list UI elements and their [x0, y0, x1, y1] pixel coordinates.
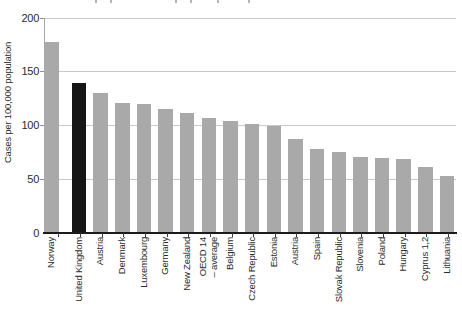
- gridline-150: [44, 71, 456, 72]
- bar-united-kingdom: [72, 83, 87, 234]
- bar-austria: [288, 139, 303, 233]
- bar-spain: [310, 149, 325, 233]
- x-label-poland: Poland: [377, 237, 388, 325]
- cropped-text-fragment: [248, 0, 250, 3]
- y-tick-label-200: 200: [0, 12, 39, 24]
- x-label-lithuania: Lithuania: [442, 237, 453, 325]
- x-label-austria: Austria: [290, 237, 301, 325]
- bar-hungary: [396, 159, 411, 233]
- bar-czech-republic: [245, 124, 260, 233]
- cropped-text-fragment: [175, 0, 177, 3]
- bar-estonia: [267, 126, 282, 234]
- x-label-belgium: Belgium: [225, 237, 236, 325]
- y-tick-label-100: 100: [0, 119, 39, 131]
- x-label-new-zealand: New Zealand: [182, 237, 193, 325]
- x-label-cyprus-1-2: Cyprus 1,2: [420, 237, 431, 325]
- bar-austria: [93, 93, 108, 233]
- x-label-luxembourg: Luxembourg: [139, 237, 150, 325]
- x-label-czech-republic: Czech Republic: [247, 237, 258, 325]
- bar-slovenia: [353, 157, 368, 233]
- y-tick-label-150: 150: [0, 65, 39, 77]
- x-tick-mark: [58, 233, 59, 237]
- x-label-oecd-14-average: OECD 14 – average: [198, 237, 219, 325]
- bar-norway: [44, 42, 59, 233]
- x-label-germany: Germany: [160, 237, 171, 325]
- x-axis-line: [43, 232, 457, 234]
- bar-new-zealand: [180, 113, 195, 233]
- y-tick-label-0: 0: [0, 227, 39, 239]
- bar-cyprus-1-2: [418, 167, 433, 233]
- x-label-norway: Norway: [46, 237, 57, 325]
- y-tick-label-50: 50: [0, 173, 39, 185]
- y-axis-title: Cases per 100,000 population: [2, 38, 15, 168]
- bar-poland: [375, 158, 390, 233]
- plot-area: [44, 18, 456, 233]
- x-label-denmark: Denmark: [117, 237, 128, 325]
- bar-belgium: [223, 121, 238, 233]
- cropped-text-fragment: [217, 0, 219, 3]
- bar-oecd-14-average: [202, 118, 217, 233]
- bar-lithuania: [440, 176, 455, 233]
- x-label-estonia: Estonia: [269, 237, 280, 325]
- x-label-slovak-republic: Slovak Republic: [334, 237, 345, 325]
- x-label-united-kingdom: United Kingdom: [74, 237, 85, 325]
- x-label-austria: Austria: [95, 237, 106, 325]
- gridline-200: [44, 18, 456, 19]
- x-label-hungary: Hungary: [398, 237, 409, 325]
- cropped-text-fragment: [110, 0, 112, 3]
- cropped-text-fragment: [190, 0, 192, 3]
- bar-germany: [158, 109, 173, 233]
- bar-denmark: [115, 103, 130, 233]
- cropped-text-fragment: [95, 0, 97, 3]
- x-label-spain: Spain: [312, 237, 323, 325]
- x-label-slovenia: Slovenia: [355, 237, 366, 325]
- bar-luxembourg: [137, 104, 152, 233]
- bar-slovak-republic: [332, 152, 347, 233]
- bar-chart-figure: Cases per 100,000 population 05010015020…: [0, 0, 462, 329]
